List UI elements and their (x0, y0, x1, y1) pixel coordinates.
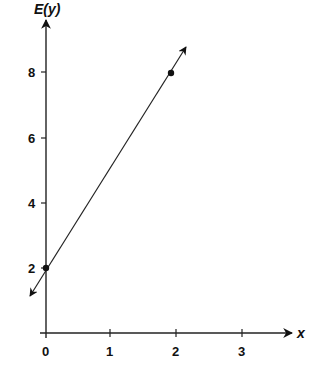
x-tick-label: 0 (42, 344, 49, 359)
y-tick-label: 6 (28, 131, 35, 146)
x-tick-label: 3 (238, 344, 245, 359)
data-point (43, 265, 49, 271)
y-tick-label: 4 (28, 196, 36, 211)
x-tick-label: 1 (106, 344, 113, 359)
y-tick-label: 2 (28, 261, 35, 276)
data-point (168, 70, 174, 76)
y-tick-label: 8 (28, 65, 35, 80)
y-ticks: 2 4 6 8 (28, 65, 46, 276)
regression-line (30, 47, 186, 296)
y-axis-label: E(y) (34, 1, 61, 17)
chart: E(y) x 0 1 2 3 2 4 6 8 (0, 0, 318, 378)
x-axis-label: x (296, 325, 306, 341)
x-tick-label: 2 (172, 344, 179, 359)
